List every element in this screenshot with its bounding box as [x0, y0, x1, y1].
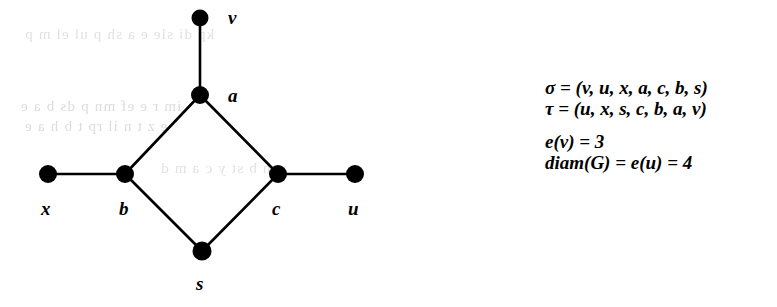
annotation-tau-ordering: τ = (u, x, s, c, b, a, v) [545, 99, 777, 118]
vertex-label-x: x [41, 199, 51, 218]
graph-vertices [39, 10, 364, 261]
edge-b-s [125, 174, 202, 251]
annotation-eccentricity-v: e(v) = 3 [545, 132, 777, 151]
figure-page: kp di sle e a sh p ul el m p im r e ef m… [0, 0, 777, 307]
vertex-a[interactable] [191, 86, 209, 104]
vertex-b[interactable] [116, 165, 134, 183]
math-annotations: σ = (v, u, x, a, c, b, s) τ = (u, x, s, … [545, 78, 777, 174]
graph-svg [0, 0, 430, 307]
vertex-label-c: c [272, 199, 280, 218]
graph-diagram: v a x b c u s [0, 0, 430, 307]
vertex-x[interactable] [39, 165, 57, 183]
vertex-c[interactable] [269, 165, 287, 183]
edge-s-c [202, 174, 278, 251]
annotation-diameter: diam(G) = e(u) = 4 [545, 153, 777, 172]
vertex-u[interactable] [346, 165, 364, 183]
vertex-label-s: s [196, 274, 203, 293]
edge-a-b [125, 95, 200, 174]
vertex-s[interactable] [193, 242, 212, 261]
vertex-label-b: b [119, 199, 129, 218]
vertex-label-v: v [228, 8, 236, 27]
graph-edges [48, 18, 355, 251]
edge-a-c [200, 95, 278, 174]
vertex-label-a: a [228, 86, 238, 105]
vertex-v[interactable] [192, 10, 209, 27]
vertex-label-u: u [348, 199, 359, 218]
annotation-sigma-ordering: σ = (v, u, x, a, c, b, s) [545, 78, 777, 97]
